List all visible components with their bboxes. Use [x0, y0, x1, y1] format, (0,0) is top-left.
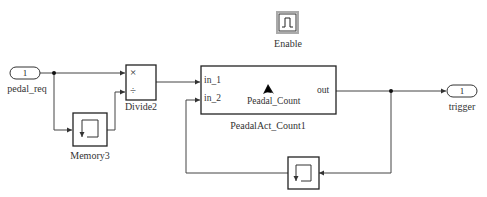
branch-point: [52, 71, 56, 75]
divide-icon: ÷: [130, 84, 136, 96]
divide2-block[interactable]: × ÷: [126, 65, 156, 100]
inport-label: pedal_req: [7, 83, 46, 94]
inport-number: 1: [10, 67, 40, 79]
memory3-label: Memory3: [70, 150, 109, 161]
peadalact-count1-subsystem[interactable]: in_1 in_2 out Peadal_Count: [201, 66, 336, 114]
enable-label: Enable: [274, 38, 302, 49]
divide2-label: Divide2: [125, 101, 157, 112]
enable-block[interactable]: [277, 12, 298, 33]
memory-feedback-block[interactable]: [288, 157, 319, 189]
outport-number: 1: [447, 85, 477, 97]
outport-label: trigger: [449, 101, 476, 112]
port-out: out: [317, 85, 329, 95]
memory3-block[interactable]: [73, 113, 107, 146]
port-in-2: in_2: [204, 93, 221, 103]
outport-trigger[interactable]: 1: [447, 85, 477, 97]
multiply-icon: ×: [130, 66, 136, 78]
subsystem-label: PeadalAct_Count1: [230, 120, 306, 131]
port-in-1: in_1: [204, 75, 221, 85]
subsystem-inner-name: Peadal_Count: [247, 96, 300, 106]
branch-point: [389, 89, 393, 93]
inport-pedal-req[interactable]: 1: [10, 67, 40, 79]
